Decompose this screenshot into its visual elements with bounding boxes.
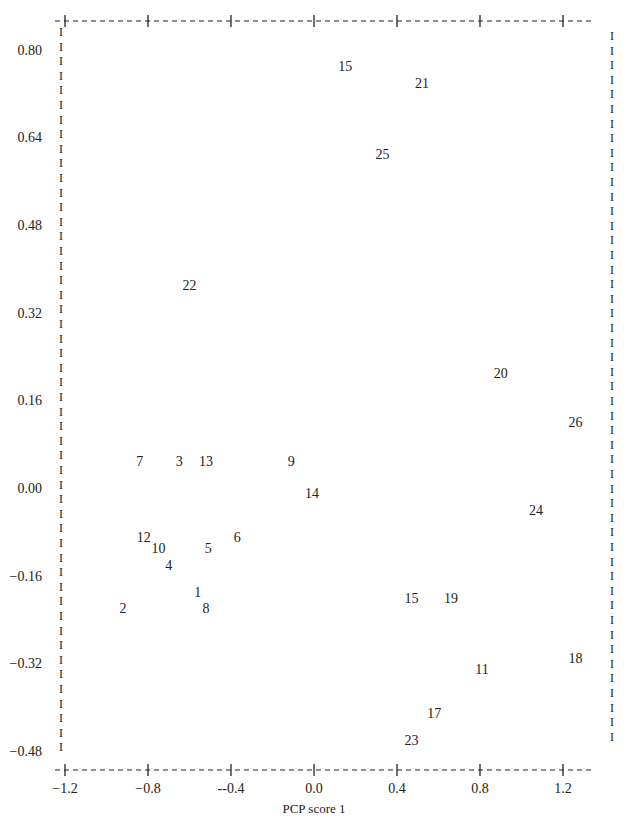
point-label: 15 [405, 591, 419, 606]
y-axis-ibar-glyph: I [59, 624, 63, 638]
y-tick-labels: 0.800.640.480.320.160.00−0.16−0.32−0.48 [10, 43, 42, 759]
y-axis-ibar-glyph: I [59, 594, 63, 608]
y-axis-ibar-glyph: I [610, 569, 614, 583]
x-tick-label: 1.2 [554, 781, 572, 796]
y-tick-label: 0.64 [18, 130, 43, 145]
y-axis-ibar-glyph: I [59, 25, 63, 39]
y-axis-ibar-glyph: I [610, 379, 614, 393]
x-tick-label: −0.8 [135, 781, 160, 796]
y-axis-ibar-glyph: I [610, 336, 614, 350]
y-axis-ibar-glyph: I [610, 584, 614, 598]
y-axis-ibar-glyph: I [59, 419, 63, 433]
y-axis-ibar-glyph: I [59, 229, 63, 243]
y-axis-ibar-glyph: I [59, 244, 63, 258]
y-tick-label: 0.80 [18, 43, 43, 58]
point-label: 2 [120, 601, 127, 616]
point-label: 24 [529, 503, 543, 518]
point-label: 8 [203, 601, 210, 616]
y-axis-ibar-glyph: I [610, 409, 614, 423]
x-tick-label: −1.2 [52, 781, 77, 796]
y-axis-ibar-glyph: I [610, 438, 614, 452]
y-axis-ibar-glyph: I [59, 740, 63, 754]
y-axis-ibar-glyph: I [59, 375, 63, 389]
y-axis-ibar-glyph: I [59, 156, 63, 170]
y-axis-ibar-glyph: I [610, 496, 614, 510]
point-label: 20 [494, 366, 508, 381]
y-axis-ibar-glyph: I [610, 321, 614, 335]
y-axis-ibar-glyph: I [59, 361, 63, 375]
y-axis-ibar-glyph: I [59, 302, 63, 316]
y-axis-ibar-glyph: I [610, 525, 614, 539]
y-axis-ibar-glyph: I [610, 642, 614, 656]
y-axis-ibar-glyph: I [610, 248, 614, 262]
y-axis-ibar-glyph: I [59, 390, 63, 404]
y-axis-ibar-glyph: I [59, 98, 63, 112]
y-axis-ibar-glyph: I [610, 467, 614, 481]
point-label: 23 [405, 733, 419, 748]
point-label: 12 [137, 530, 151, 545]
y-axis-ibar-glyph: I [610, 715, 614, 729]
y-axis-ibar-glyph: I [59, 171, 63, 185]
y-tick-label: 0.48 [18, 218, 43, 233]
x-tick-label: 0.4 [388, 781, 406, 796]
y-axis-ibar-glyph: I [59, 288, 63, 302]
y-axis-ibar-glyph: I [59, 507, 63, 521]
point-label: 4 [165, 558, 172, 573]
y-axis-ibar-glyph: I [610, 628, 614, 642]
y-axis-ibar-glyph: I [59, 463, 63, 477]
y-axis-ibar-glyph: I [59, 142, 63, 156]
y-axis-ibar-glyph: I [59, 580, 63, 594]
y-axis-ibar-glyph: I [610, 657, 614, 671]
point-label: 3 [176, 454, 183, 469]
x-tick-label: 0.0 [305, 781, 323, 796]
y-axis-ibar-glyph: I [610, 394, 614, 408]
y-axis-ibar-glyph: I [59, 40, 63, 54]
point-label: 14 [305, 486, 319, 501]
point-label: 18 [568, 651, 582, 666]
y-tick-label: 0.00 [18, 481, 43, 496]
y-axis-ibar-glyph: I [610, 306, 614, 320]
data-points: 1521252220267313914241261054115192818111… [120, 59, 583, 748]
y-axis-ibar-glyph: I [59, 83, 63, 97]
y-axis-ibar-glyph: I [610, 58, 614, 72]
y-axis-ibar-glyph: I [610, 598, 614, 612]
x-tick-labels: −1.2−0.8--0.40.00.40.81.2 [52, 781, 571, 796]
y-axis-ibar-glyph: I [610, 175, 614, 189]
y-axis-ibar-glyph: I [610, 146, 614, 160]
y-axis-ibar-glyph: I [610, 160, 614, 174]
point-label: 19 [444, 591, 458, 606]
point-label: 22 [183, 278, 197, 293]
y-axis-ibar-glyph: I [59, 273, 63, 287]
point-label: 6 [234, 530, 241, 545]
y-axis-ibar-glyph: I [610, 365, 614, 379]
y-axis-ibar-glyph: I [610, 190, 614, 204]
point-label: 10 [151, 541, 165, 556]
y-axis-ibar-glyph: I [59, 317, 63, 331]
y-axis-ibar-glyph: I [59, 54, 63, 68]
y-axis-ibar-glyph: I [59, 609, 63, 623]
y-axis-ibar-glyph: I [610, 730, 614, 744]
y-axis-ibar-glyph: I [610, 29, 614, 43]
y-axis-ibar-glyph: I [59, 697, 63, 711]
point-label: 1 [194, 585, 201, 600]
y-axis-ibar-glyph: I [59, 127, 63, 141]
point-label: 21 [415, 76, 429, 91]
y-axis-right-ibar: IIIIIIIIIIIIIIIIIIIIIIIIIIIIIIIIIIIIIIII… [610, 29, 614, 744]
x-tick-label: 0.8 [471, 781, 489, 796]
y-axis-ibar-glyph: I [59, 711, 63, 725]
y-axis-ibar-glyph: I [59, 259, 63, 273]
y-axis-ibar-glyph: I [59, 186, 63, 200]
y-axis-ibar-glyph: I [610, 131, 614, 145]
y-tick-label: −0.16 [10, 569, 42, 584]
y-axis-ibar-glyph: I [610, 292, 614, 306]
y-axis-ibar-glyph: I [610, 482, 614, 496]
y-axis-ibar-glyph: I [59, 682, 63, 696]
y-axis-ibar-glyph: I [59, 332, 63, 346]
y-axis-ibar-glyph: I [59, 667, 63, 681]
scatter-plot: IIIIIIIIIIIIIIIIIIIIIIIIIIIIIIIIIIIIIIII… [0, 0, 629, 821]
y-axis-ibar-glyph: I [610, 233, 614, 247]
y-axis-ibar-glyph: I [610, 263, 614, 277]
y-axis-ibar-glyph: I [59, 69, 63, 83]
y-axis-ibar-glyph: I [610, 102, 614, 116]
y-axis-ibar-glyph: I [59, 536, 63, 550]
